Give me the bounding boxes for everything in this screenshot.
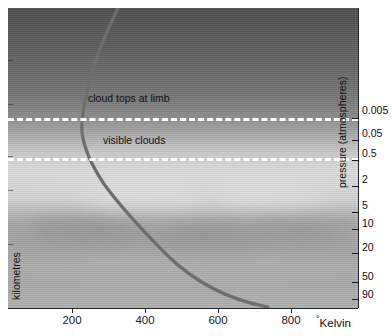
- x-axis-label-600: 600: [208, 314, 227, 326]
- pressure-axis-title: pressure (atmospheres): [336, 77, 348, 188]
- left-axis-tick: [8, 190, 13, 191]
- venus-atmosphere-profile-figure: cloud tops at limb visible clouds 200 40…: [0, 0, 392, 336]
- left-axis-tick: [8, 244, 13, 245]
- pressure-tick: [352, 160, 359, 161]
- pressure-tick: [352, 229, 359, 230]
- x-axis-label-400: 400: [135, 314, 154, 326]
- x-axis-line: [8, 308, 358, 309]
- plot-area: cloud tops at limb visible clouds: [8, 8, 358, 308]
- x-axis-tick: [218, 308, 219, 313]
- cloud-tops-dashed-line: [8, 118, 358, 121]
- x-axis-tick: [291, 308, 292, 313]
- visible-clouds-dashed-line: [8, 158, 358, 161]
- annotation-visible-clouds: visible clouds: [103, 134, 165, 146]
- right-axis-line: [358, 8, 359, 308]
- pressure-tick: [352, 118, 359, 119]
- annotation-cloud-tops: cloud tops at limb: [88, 92, 170, 104]
- pressure-label-10: 10: [362, 217, 374, 229]
- pressure-tick: [352, 253, 359, 254]
- left-axis-tick: [8, 156, 13, 157]
- pressure-tick: [352, 282, 359, 283]
- pressure-label-2: 2: [362, 173, 368, 185]
- kelvin-unit-label: °Kelvin: [316, 314, 351, 329]
- x-axis-tick: [145, 308, 146, 313]
- pressure-label-0005: 0.005: [362, 104, 388, 116]
- pressure-tick: [352, 140, 359, 141]
- pressure-tick: [352, 212, 359, 213]
- left-axis-tick: [8, 60, 13, 61]
- pressure-label-5: 5: [362, 199, 368, 211]
- pressure-label-005: 0.05: [362, 127, 382, 139]
- kilometres-axis-title: kilometres: [10, 252, 22, 300]
- pressure-tick: [352, 186, 359, 187]
- kelvin-text: Kelvin: [320, 317, 351, 329]
- pressure-label-50: 50: [362, 270, 374, 282]
- pressure-label-05: 0.5: [362, 147, 377, 159]
- pressure-label-20: 20: [362, 241, 374, 253]
- x-axis-label-800: 800: [281, 314, 300, 326]
- x-axis-label-200: 200: [62, 314, 81, 326]
- pressure-tick: [352, 299, 359, 300]
- left-axis-tick: [8, 104, 13, 105]
- x-axis-tick: [72, 308, 73, 313]
- pressure-label-90: 90: [362, 288, 374, 300]
